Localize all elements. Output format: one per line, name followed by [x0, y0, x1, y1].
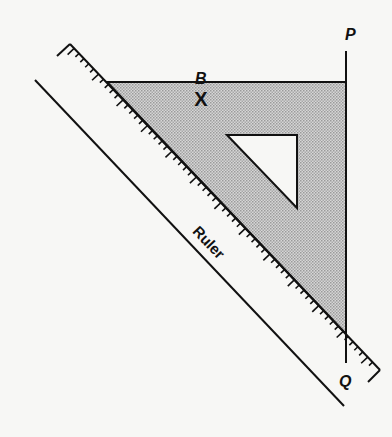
ruler-tick [203, 187, 207, 190]
point-b-label: B [195, 70, 207, 87]
ruler-tick [305, 295, 309, 298]
ruler-tick [212, 198, 216, 201]
ruler-end-bottom [368, 370, 380, 382]
ruler-tick [117, 100, 124, 106]
ruler-tick [100, 79, 104, 82]
ruler-tick [208, 192, 212, 195]
ruler-tick [198, 182, 202, 185]
ruler-tick [105, 84, 109, 87]
ruler-tick [214, 203, 221, 209]
ruler-tick [159, 141, 163, 144]
ruler-tick [68, 48, 75, 54]
ruler-tick [271, 259, 275, 262]
ruler-tick [281, 270, 285, 273]
ruler-tick [163, 146, 167, 149]
ruler-tick [141, 126, 148, 132]
ruler-tick [354, 347, 358, 350]
ruler-tick [190, 177, 197, 183]
ruler-tick [325, 316, 329, 319]
ruler-tick [312, 306, 319, 312]
ruler-tick [335, 326, 339, 329]
ruler-tick [80, 59, 84, 62]
ruler-label: Ruler [190, 222, 229, 262]
diagram-canvas: Ruler P Q B X [0, 0, 392, 437]
ruler-tick [188, 172, 192, 175]
ruler-tick [129, 110, 133, 113]
ruler-tick [222, 208, 226, 211]
ruler-tick [154, 136, 158, 139]
ruler-tick [124, 105, 128, 108]
ruler-tick [110, 90, 114, 93]
ruler-tick [369, 362, 373, 365]
ruler-tick [149, 131, 153, 134]
ruler-tick [359, 352, 363, 355]
ruler-tick [349, 342, 353, 345]
ruler-tick [300, 290, 304, 293]
ruler-tick [178, 162, 182, 165]
ruler-tick [239, 228, 246, 234]
ruler-tick [330, 321, 334, 324]
ruler-tick [92, 74, 99, 80]
ruler-tick [85, 64, 89, 67]
ruler-tick [183, 167, 187, 170]
point-p-label: P [345, 26, 356, 43]
ruler-tick [276, 264, 280, 267]
ruler-tick [227, 213, 231, 216]
point-q-label: Q [339, 373, 352, 390]
ruler-tick [263, 254, 270, 260]
ruler-tick [173, 156, 177, 159]
ruler-tick [288, 280, 295, 286]
ruler-tick [247, 234, 251, 237]
ruler-tick [296, 285, 300, 288]
point-b-mark: X [194, 88, 208, 110]
ruler-tick [310, 300, 314, 303]
ruler-tick [115, 95, 119, 98]
ruler-tick [134, 115, 138, 118]
ruler-tick [361, 357, 368, 363]
ruler-tick [139, 120, 143, 123]
ruler-tick [286, 275, 290, 278]
ruler-tick [237, 223, 241, 226]
ruler-tick [261, 249, 265, 252]
ruler-tick [252, 239, 256, 242]
ruler-tick [90, 69, 94, 72]
ruler-tick [232, 218, 236, 221]
ruler-tick [320, 311, 324, 314]
ruler-tick [256, 244, 260, 247]
ruler-tick [75, 53, 79, 56]
ruler-tick [337, 331, 344, 337]
ruler-tick [165, 151, 172, 157]
